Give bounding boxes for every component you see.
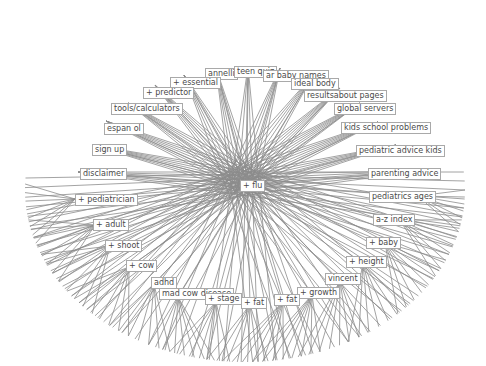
graph-node-shoot[interactable]: + shoot: [105, 240, 142, 252]
graph-edge: [311, 295, 312, 354]
graph-edge: [385, 243, 422, 293]
graph-node-adult[interactable]: + adult: [93, 219, 129, 231]
graph-node-kids-school-problems[interactable]: kids school problems: [341, 122, 431, 134]
graph-edge: [66, 246, 110, 290]
center-node-flu[interactable]: + flu: [240, 180, 265, 192]
graph-node-fat[interactable]: + fat: [274, 294, 300, 306]
graph-node-parenting-advice[interactable]: parenting advice: [368, 168, 441, 180]
graph-edge: [25, 193, 75, 199]
graph-edge: [128, 267, 129, 336]
graph-edge: [250, 305, 268, 361]
graph-node-predictor[interactable]: + predictor: [143, 87, 194, 99]
graph-node-pediatrics-ages[interactable]: pediatrics ages: [369, 191, 436, 203]
graph-edge: [400, 220, 441, 269]
graph-node-disclaimer[interactable]: disclaimer: [80, 168, 127, 180]
graph-node-a-z-index[interactable]: a-z index: [373, 214, 415, 226]
graph-node-ideal-body[interactable]: ideal body: [291, 78, 339, 90]
graph-edge: [28, 199, 75, 218]
graph-edge: [247, 185, 312, 295]
graph-node-pediatrician[interactable]: + pediatrician: [75, 194, 138, 206]
graph-edge: [74, 267, 129, 299]
graph-edge: [247, 185, 250, 305]
graph-node-height[interactable]: + height: [346, 256, 387, 268]
graph-node-fat[interactable]: + fat: [241, 297, 267, 309]
graph-node-resultsabout-pages[interactable]: resultsabout pages: [304, 90, 387, 102]
graph-edge: [363, 263, 388, 321]
graph-edge: [385, 243, 414, 300]
graph-node-vincent[interactable]: vincent: [325, 273, 361, 285]
graph-node-tools-calculators[interactable]: tools/calculators: [111, 103, 183, 115]
graph-node-cow[interactable]: + cow: [126, 260, 157, 272]
graph-node-stage[interactable]: + stage: [205, 293, 242, 305]
graph-node-espan-ol[interactable]: espan ol: [104, 123, 144, 135]
graph-edge: [178, 297, 214, 360]
graph-edge: [227, 305, 250, 361]
graph-edge: [217, 305, 250, 361]
graph-node-growth[interactable]: + growth: [297, 287, 340, 299]
graph-node-baby[interactable]: + baby: [366, 237, 401, 249]
graph-node-pediatric-advice-kids[interactable]: pediatric advice kids: [356, 145, 445, 157]
graph-node-sign-up[interactable]: sign up: [92, 144, 127, 156]
graph-node-global-servers[interactable]: global servers: [334, 103, 396, 115]
graph-edge: [340, 281, 359, 337]
